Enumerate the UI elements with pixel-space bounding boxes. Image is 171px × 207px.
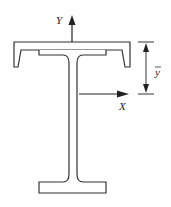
x-axis-label: X bbox=[119, 101, 126, 112]
ybar-label: y bbox=[155, 67, 160, 78]
y-axis-label: Y bbox=[56, 15, 62, 26]
y-axis-arrowhead-icon bbox=[69, 15, 76, 25]
i-beam-section bbox=[39, 50, 106, 193]
composite-section-diagram bbox=[0, 0, 171, 207]
ybar-arrowhead-up-icon bbox=[143, 43, 149, 52]
x-axis-arrowhead-icon bbox=[117, 91, 129, 98]
ybar-arrowhead-down-icon bbox=[143, 84, 149, 93]
